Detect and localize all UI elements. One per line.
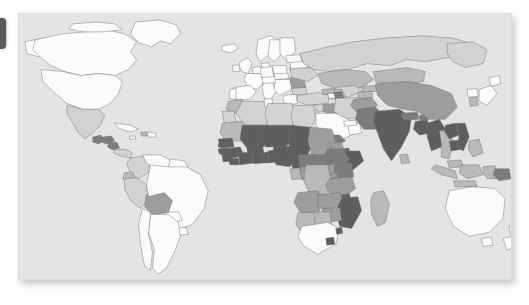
country-nepal[interactable] bbox=[401, 112, 419, 120]
country-jamaica[interactable] bbox=[130, 136, 136, 139]
country-uae[interactable] bbox=[344, 120, 357, 126]
country-haiti[interactable] bbox=[141, 132, 148, 136]
country-lesotho[interactable] bbox=[326, 237, 335, 245]
country-portugal[interactable] bbox=[229, 88, 236, 99]
country-south-korea[interactable] bbox=[469, 96, 478, 106]
world-map-svg[interactable] bbox=[19, 14, 511, 279]
country-kyrgyzstan[interactable] bbox=[362, 85, 377, 92]
country-gabon[interactable] bbox=[290, 168, 302, 180]
country-togo[interactable] bbox=[262, 152, 269, 163]
country-baltics[interactable] bbox=[286, 55, 302, 63]
country-czechia-slovakia[interactable] bbox=[274, 74, 289, 80]
country-north-korea[interactable] bbox=[467, 88, 478, 97]
country-eswatini[interactable] bbox=[336, 227, 343, 234]
country-sri-lanka[interactable] bbox=[399, 154, 409, 164]
country-ivory-coast[interactable] bbox=[238, 152, 254, 165]
country-dominican-republic[interactable] bbox=[147, 132, 156, 137]
country-ireland[interactable] bbox=[232, 65, 240, 72]
world-map-panel[interactable] bbox=[18, 13, 512, 280]
country-liberia[interactable] bbox=[228, 158, 240, 165]
collapsed-panel-tab[interactable] bbox=[0, 18, 6, 49]
country-western-sahara[interactable] bbox=[222, 111, 236, 123]
country-indonesia-java[interactable] bbox=[453, 181, 477, 187]
country-tasmania[interactable] bbox=[481, 237, 493, 246]
